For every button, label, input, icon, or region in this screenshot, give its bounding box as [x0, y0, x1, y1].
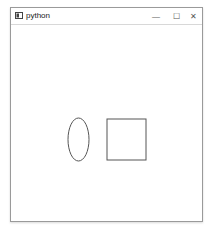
maximize-icon: ☐: [173, 12, 180, 21]
title-bar[interactable]: python — ☐ ✕: [11, 8, 202, 25]
app-window: python — ☐ ✕: [10, 7, 203, 222]
minimize-icon: —: [152, 12, 160, 21]
rectangle-shape: [107, 119, 146, 160]
close-button[interactable]: ✕: [183, 8, 203, 24]
window-title: python: [26, 10, 50, 21]
ellipse-shape: [68, 118, 89, 161]
app-icon: [15, 12, 23, 19]
close-icon: ✕: [190, 12, 197, 21]
minimize-button[interactable]: —: [146, 8, 166, 24]
drawing-canvas[interactable]: [11, 24, 202, 221]
